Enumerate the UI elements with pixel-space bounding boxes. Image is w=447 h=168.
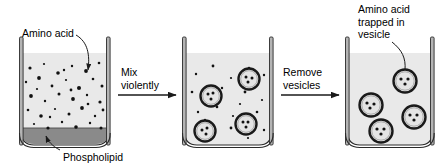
vesicle (403, 106, 426, 129)
beaker-3-left-wall (346, 37, 350, 145)
vesicle (201, 86, 222, 107)
beaker-2-right-wall (270, 37, 274, 145)
mix-violently-label: Mix violently (121, 66, 159, 91)
beaker-1-left-wall (20, 37, 24, 145)
vesicle (239, 69, 260, 90)
beaker-2-left-wall (183, 37, 187, 145)
beaker-1-right-wall (107, 37, 111, 145)
phospholipid-layer (22, 128, 108, 144)
vesicle (370, 120, 393, 143)
vesicle-formation-diagram: Amino acid Phospholipid Mix violently Re… (0, 0, 447, 168)
amino-acid-trapped-label: Amino acid trapped in vesicle (358, 3, 410, 41)
remove-vesicles-label: Remove vesicles (283, 66, 322, 91)
vesicle (195, 121, 216, 142)
vesicle (394, 70, 417, 93)
phospholipid-label: Phospholipid (63, 151, 123, 164)
vesicle (236, 114, 257, 135)
vesicle (360, 94, 383, 117)
beaker-3-right-wall (431, 37, 435, 145)
beaker-1-amino-acid-solution (20, 37, 111, 148)
beaker-3-purified-vesicles (346, 37, 435, 148)
amino-acid-label: Amino acid (22, 27, 74, 40)
beaker-2-mixed-vesicles (183, 37, 274, 148)
